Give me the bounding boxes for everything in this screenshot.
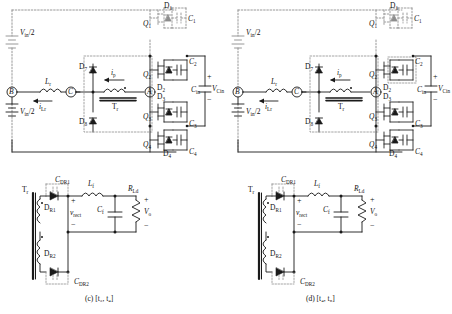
label-CDR1-c: CDR1 bbox=[55, 176, 70, 184]
switch-Q4-d bbox=[376, 130, 413, 150]
sec-winding-top-d bbox=[263, 199, 266, 223]
label-CDR2-c: CDR2 bbox=[74, 278, 89, 286]
supply-loop-c bbox=[12, 10, 176, 152]
caption-d: (d) [t₄, t₅] bbox=[306, 294, 335, 303]
vrect-plus-c: + bbox=[71, 197, 76, 205]
switch-Q1-d bbox=[376, 8, 412, 28]
label-vin-bottom-c: Vin/2 bbox=[20, 108, 34, 116]
label-RLd-d: RLd bbox=[354, 185, 364, 193]
battery-top-c bbox=[6, 36, 18, 48]
label-Cf-c: Cf bbox=[97, 206, 104, 214]
label-Q2-c: Q2 bbox=[143, 71, 151, 79]
label-vin-top-c: Vin/2 bbox=[20, 29, 34, 37]
panel-d: Vin/2 Vin/2 B C A Lr iLr ip Tr D7 D8 Q1 … bbox=[226, 0, 452, 314]
label-iLr-d: iLr bbox=[265, 103, 272, 111]
inductor-Lr-d bbox=[266, 89, 287, 92]
label-VCin-c: VCin bbox=[212, 85, 224, 93]
label-D3-d: D3 bbox=[383, 93, 391, 101]
inductor-Lf-c bbox=[82, 193, 103, 196]
label-Vo-c: Vo bbox=[144, 208, 151, 216]
cin-minus-d: − bbox=[433, 96, 438, 104]
label-C1-d: C1 bbox=[414, 15, 422, 23]
caption-c: (c) [t₃, t₄] bbox=[85, 294, 113, 303]
label-Q3-d: Q3 bbox=[369, 113, 377, 121]
label-ip-d: ip bbox=[337, 69, 342, 77]
label-DR1-d: DR1 bbox=[270, 204, 281, 212]
label-D2-d: D2 bbox=[383, 84, 391, 92]
label-Lr-d: Lr bbox=[271, 78, 277, 86]
snubber-CDR1-d bbox=[272, 184, 294, 196]
label-CDR1-d: CDR1 bbox=[281, 176, 296, 184]
label-C4-d: C4 bbox=[415, 148, 423, 156]
label-ip-c: ip bbox=[111, 69, 116, 77]
snubber-CDR1-c bbox=[46, 184, 68, 196]
vrect-minus-c: − bbox=[71, 221, 76, 229]
cin-plus-c: + bbox=[207, 73, 212, 81]
label-D2-c: D2 bbox=[157, 84, 165, 92]
label-vrect-c: vrect bbox=[70, 209, 81, 217]
label-D1-c: D1 bbox=[164, 2, 172, 10]
switch-Q2-d bbox=[376, 60, 413, 80]
panel-d-schematic bbox=[226, 0, 452, 314]
label-iLr-c: iLr bbox=[39, 103, 46, 111]
label-VCin-d: VCin bbox=[438, 85, 450, 93]
label-Cin-c: Cin bbox=[191, 86, 200, 94]
clamp-branch-d bbox=[316, 64, 323, 132]
supply-loop-d bbox=[238, 10, 402, 152]
node-C-label-c: C bbox=[68, 88, 73, 96]
sec-winding-bot-c bbox=[37, 240, 40, 264]
resistor-RLd-c bbox=[132, 200, 140, 222]
label-vin-top-d: Vin/2 bbox=[246, 29, 260, 37]
label-Q1-d: Q1 bbox=[369, 20, 377, 28]
label-Q1-c: Q1 bbox=[143, 20, 151, 28]
vrect-minus-d: − bbox=[297, 221, 302, 229]
label-D4-d: D4 bbox=[389, 150, 397, 158]
label-Cin-d: Cin bbox=[417, 86, 426, 94]
diode-DR1-d bbox=[276, 192, 284, 200]
clamp-branch-c bbox=[90, 64, 97, 132]
node-B-label-c: B bbox=[9, 88, 14, 96]
label-C2-c: C2 bbox=[189, 58, 197, 66]
label-D7-c: D7 bbox=[79, 63, 87, 71]
node-B-label-d: B bbox=[235, 88, 240, 96]
label-vin-bottom-d: Vin/2 bbox=[246, 108, 260, 116]
vrect-plus-d: + bbox=[297, 197, 302, 205]
label-Cf-d: Cf bbox=[323, 206, 330, 214]
label-D4-c: D4 bbox=[163, 150, 171, 158]
label-Lf-d: Lf bbox=[314, 180, 320, 188]
label-D1-d: D1 bbox=[390, 2, 398, 10]
label-sec-Tr-c: Tr bbox=[22, 186, 28, 194]
label-Q4-c: Q4 bbox=[143, 141, 151, 149]
vo-plus-d: + bbox=[370, 196, 375, 204]
label-DR1-c: DR1 bbox=[44, 204, 55, 212]
resistor-RLd-d bbox=[358, 200, 366, 222]
cin-minus-c: − bbox=[207, 96, 212, 104]
inductor-Lr-c bbox=[40, 89, 61, 92]
label-DR2-d: DR2 bbox=[270, 250, 281, 258]
vo-minus-d: − bbox=[370, 222, 375, 230]
label-RLd-c: RLd bbox=[128, 185, 138, 193]
label-D3-c: D3 bbox=[157, 93, 165, 101]
label-C1-c: C1 bbox=[188, 15, 196, 23]
inductor-Lf-d bbox=[308, 193, 329, 196]
sec-winding-top-c bbox=[37, 199, 40, 223]
transformer-primary-c bbox=[104, 89, 125, 92]
label-C3-c: C3 bbox=[189, 120, 197, 128]
switch-Q2-c bbox=[150, 60, 187, 80]
switch-Q3-c bbox=[150, 102, 187, 122]
battery-top-d bbox=[232, 36, 244, 48]
label-C2-d: C2 bbox=[415, 58, 423, 66]
label-Q2-d: Q2 bbox=[369, 71, 377, 79]
label-Lr-c: Lr bbox=[45, 78, 51, 86]
panel-c-schematic bbox=[0, 0, 226, 314]
label-Q3-c: Q3 bbox=[143, 113, 151, 121]
snubber-CDR2-c bbox=[46, 272, 68, 284]
vo-plus-c: + bbox=[144, 196, 149, 204]
label-sec-Tr-d: Tr bbox=[248, 186, 254, 194]
cin-plus-d: + bbox=[433, 73, 438, 81]
snubber-CDR2-d bbox=[272, 272, 294, 284]
vo-minus-c: − bbox=[144, 222, 149, 230]
label-Q4-d: Q4 bbox=[369, 141, 377, 149]
label-D8-c: D8 bbox=[79, 118, 87, 126]
label-D7-d: D7 bbox=[305, 63, 313, 71]
